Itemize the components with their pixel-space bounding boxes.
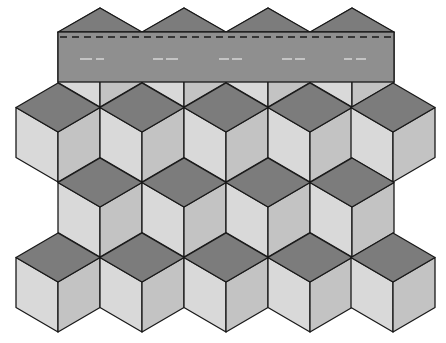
cube-diagram — [0, 0, 446, 343]
roof-triangle — [58, 8, 142, 32]
roof-triangle — [310, 8, 394, 32]
roof-triangle — [142, 8, 226, 32]
roof-triangle — [226, 8, 310, 32]
isometric-cubes-canvas — [0, 0, 446, 343]
banner-strip — [58, 32, 394, 82]
